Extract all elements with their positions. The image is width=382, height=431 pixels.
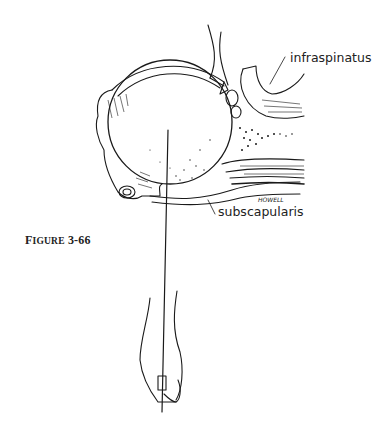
caption-smallcaps: IGURE — [33, 236, 65, 246]
subscapularis-muscle — [222, 159, 304, 164]
scapula-outline — [208, 25, 214, 78]
label-subscapularis: subscapularis — [218, 204, 304, 219]
biceps-tendon — [119, 186, 135, 198]
stipple-shading — [149, 127, 292, 181]
artist-signature: HOWELL — [258, 196, 284, 203]
anatomical-illustration: infraspinatus subscapularis HOWELL FIGUR… — [0, 0, 382, 431]
caption-number: 3-66 — [68, 233, 91, 247]
figure-caption: FIGURE 3-66 — [25, 233, 91, 248]
caption-prefix: F — [25, 233, 33, 247]
label-infraspinatus: infraspinatus — [290, 50, 371, 65]
vertical-line — [162, 130, 168, 412]
hatching — [108, 94, 304, 188]
